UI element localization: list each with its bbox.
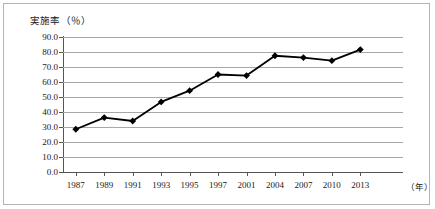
plot-area bbox=[63, 37, 403, 172]
y-tick-mark bbox=[59, 112, 63, 113]
y-tick-mark bbox=[59, 52, 63, 53]
y-tick-label: 40.0 bbox=[18, 108, 58, 117]
y-tick-label: 90.0 bbox=[18, 33, 58, 42]
x-tick-mark bbox=[76, 172, 77, 176]
gridline-40.0 bbox=[63, 112, 403, 113]
x-tick-mark bbox=[247, 172, 248, 176]
gridline-80.0 bbox=[63, 52, 403, 53]
x-tick-mark bbox=[218, 172, 219, 176]
y-tick-label: 30.0 bbox=[18, 123, 58, 132]
gridline-90.0 bbox=[63, 37, 403, 38]
x-tick-mark bbox=[133, 172, 134, 176]
x-tick-mark bbox=[303, 172, 304, 176]
gridline-30.0 bbox=[63, 127, 403, 128]
y-tick-mark bbox=[59, 82, 63, 83]
y-tick-mark bbox=[59, 67, 63, 68]
gridline-10.0 bbox=[63, 157, 403, 158]
y-tick-label: 60.0 bbox=[18, 78, 58, 87]
y-tick-label: 80.0 bbox=[18, 48, 58, 57]
x-axis-unit-label: （年） bbox=[406, 180, 433, 192]
y-tick-mark bbox=[59, 97, 63, 98]
x-tick-mark bbox=[190, 172, 191, 176]
gridline-0.0 bbox=[63, 172, 403, 173]
y-tick-mark bbox=[59, 142, 63, 143]
y-tick-mark bbox=[59, 37, 63, 38]
y-axis-tick-labels: 90.080.070.060.050.040.030.020.010.00.0 bbox=[14, 0, 58, 209]
chart-page: 実施率（％） 90.080.070.060.050.040.030.020.01… bbox=[0, 0, 435, 209]
y-tick-label: 70.0 bbox=[18, 63, 58, 72]
y-tick-label: 50.0 bbox=[18, 93, 58, 102]
y-tick-mark bbox=[59, 172, 63, 173]
x-tick-mark bbox=[360, 172, 361, 176]
y-tick-mark bbox=[59, 157, 63, 158]
x-tick-mark bbox=[275, 172, 276, 176]
y-tick-label: 20.0 bbox=[18, 138, 58, 147]
x-tick-mark bbox=[161, 172, 162, 176]
x-tick-mark bbox=[332, 172, 333, 176]
y-tick-label: 10.0 bbox=[18, 153, 58, 162]
x-tick-mark bbox=[104, 172, 105, 176]
y-tick-mark bbox=[59, 127, 63, 128]
x-tick-label: 2013 bbox=[340, 180, 380, 190]
gridline-60.0 bbox=[63, 82, 403, 83]
gridline-70.0 bbox=[63, 67, 403, 68]
gridline-20.0 bbox=[63, 142, 403, 143]
y-tick-label: 0.0 bbox=[18, 168, 58, 177]
gridline-50.0 bbox=[63, 97, 403, 98]
